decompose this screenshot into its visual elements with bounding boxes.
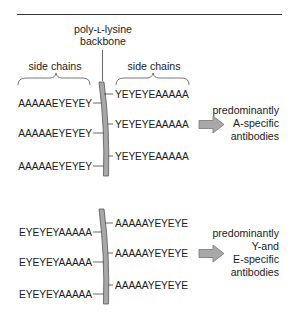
result-top-line2: A-specific <box>233 117 280 129</box>
arrow-right-icon <box>199 116 224 133</box>
result-bottom-line4: antibodies <box>231 266 279 278</box>
backbone-top <box>99 82 109 176</box>
side-chain-top-left-1: AAAAAEYEYEY <box>18 98 92 109</box>
side-chain-bottom-right-1: AAAAAYEYEYE <box>115 218 188 229</box>
side-chain-top-right-2: YEYEYEAAAAA <box>115 119 189 130</box>
result-top-line1: predominantly <box>212 104 279 116</box>
result-bottom-line3: E-specific <box>233 253 280 265</box>
backbone-label-line2: backbone <box>80 35 126 47</box>
side-chain-top-left-3: AAAAAEYEYEY <box>18 161 92 172</box>
arrow-right-icon <box>199 245 224 262</box>
result-bottom-line2: Y-and <box>252 240 279 252</box>
side-chain-bottom-left-2: EYEYEYAAAAA <box>19 257 92 268</box>
brace-right <box>116 73 189 85</box>
side-chain-bottom-right-3: AAAAAYEYEYE <box>115 280 188 291</box>
side-chain-bottom-left-3: EYEYEYAAAAA <box>19 289 92 300</box>
side-chain-top-left-2: AAAAAEYEYEY <box>18 128 92 139</box>
result-top-line3: antibodies <box>231 130 279 142</box>
side-chains-label-left: side chains <box>29 60 82 72</box>
side-chains-label-right: side chains <box>128 60 181 72</box>
brace-left <box>18 73 90 85</box>
side-chain-top-right-3: YEYEYEAAAAA <box>115 151 189 162</box>
result-bottom-line1: predominantly <box>212 227 279 239</box>
backbone-label-line1: poly-ʟ-lysine <box>74 23 132 35</box>
side-chain-bottom-left-1: EYEYEYAAAAA <box>19 227 92 238</box>
side-chain-top-right-1: YEYEYEAAAAA <box>115 89 189 100</box>
polymer-antibody-diagram: poly-ʟ-lysine backbone side chains side … <box>0 0 294 317</box>
side-chain-bottom-right-2: AAAAAYEYEYE <box>115 248 188 259</box>
